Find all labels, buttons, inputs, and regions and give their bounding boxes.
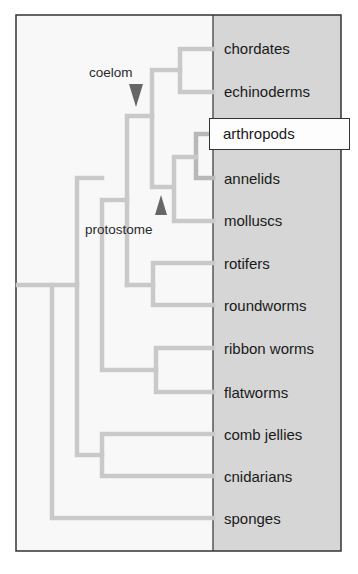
taxon-ribbon-worms: ribbon worms [224,340,314,358]
coelom-label: coelom [89,65,133,80]
taxon-comb-jellies: comb jellies [224,426,302,444]
taxon-annelids: annelids [224,170,280,188]
taxon-sponges: sponges [224,510,281,528]
taxon-echinoderms: echinoderms [224,83,310,101]
taxon-roundworms: roundworms [224,297,307,315]
highlighted-taxon-box: arthropods [209,118,350,150]
protostome-label: protostome [85,222,153,237]
taxon-cnidarians: cnidarians [224,468,292,486]
taxon-rotifers: rotifers [224,255,270,273]
taxon-flatworms: flatworms [224,384,288,402]
taxon-molluscs: molluscs [224,212,282,230]
taxon-arthropods: arthropods [223,125,295,142]
taxon-chordates: chordates [224,40,290,58]
